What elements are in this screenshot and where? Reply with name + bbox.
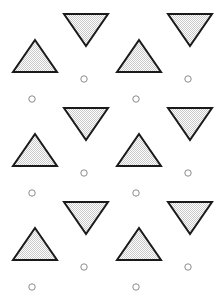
pattern-canvas <box>0 0 214 303</box>
pattern-figure <box>0 0 214 303</box>
